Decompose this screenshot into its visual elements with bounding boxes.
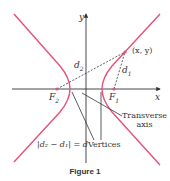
transverse-text: Transverse <box>122 112 167 120</box>
focus-f1-label: F1 <box>109 93 119 104</box>
focus-f2-point <box>55 87 58 90</box>
d2-sub: 2 <box>80 65 84 72</box>
vertex-left-leader <box>72 92 94 140</box>
d1-sub: 1 <box>128 70 132 77</box>
point-label: (x, y) <box>132 47 152 55</box>
equation-label: |d₂ − d₁| = d <box>37 141 88 149</box>
transverse-axis-label: Transverse axis <box>122 112 167 129</box>
distance-d2-line <box>57 52 125 89</box>
focus-f2-label: F2 <box>49 93 59 104</box>
figure-caption: Figure 1 <box>0 167 170 176</box>
focus-f1-point <box>112 87 115 90</box>
d2-label: d2 <box>74 61 84 72</box>
hyperbola-diagram <box>0 0 170 181</box>
y-axis-label: y <box>79 13 84 22</box>
x-axis-label: x <box>155 93 160 102</box>
d1-label: d1 <box>122 66 132 77</box>
f2-sub: 2 <box>55 97 59 104</box>
point-xy <box>123 50 126 53</box>
axis-text: axis <box>122 121 167 129</box>
f1-sub: 1 <box>115 97 119 104</box>
vertices-label: Vertices <box>88 141 121 149</box>
